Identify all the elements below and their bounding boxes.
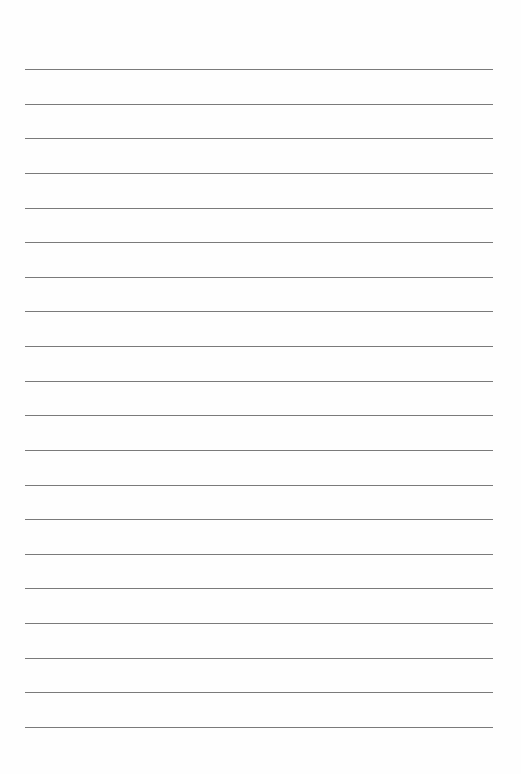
- ruled-line: [25, 450, 493, 451]
- lined-paper-page: [0, 0, 521, 774]
- ruled-line: [25, 381, 493, 382]
- ruled-line: [25, 658, 493, 659]
- ruled-line: [25, 623, 493, 624]
- ruled-line: [25, 242, 493, 243]
- ruled-line: [25, 173, 493, 174]
- ruled-line: [25, 692, 493, 693]
- ruled-line: [25, 138, 493, 139]
- ruled-line: [25, 311, 493, 312]
- ruled-line: [25, 104, 493, 105]
- ruled-line: [25, 485, 493, 486]
- ruled-line: [25, 69, 493, 70]
- ruled-line: [25, 346, 493, 347]
- ruled-line: [25, 727, 493, 728]
- ruled-line: [25, 554, 493, 555]
- ruled-line: [25, 415, 493, 416]
- ruled-line: [25, 519, 493, 520]
- ruled-line: [25, 208, 493, 209]
- ruled-line: [25, 277, 493, 278]
- ruled-line: [25, 588, 493, 589]
